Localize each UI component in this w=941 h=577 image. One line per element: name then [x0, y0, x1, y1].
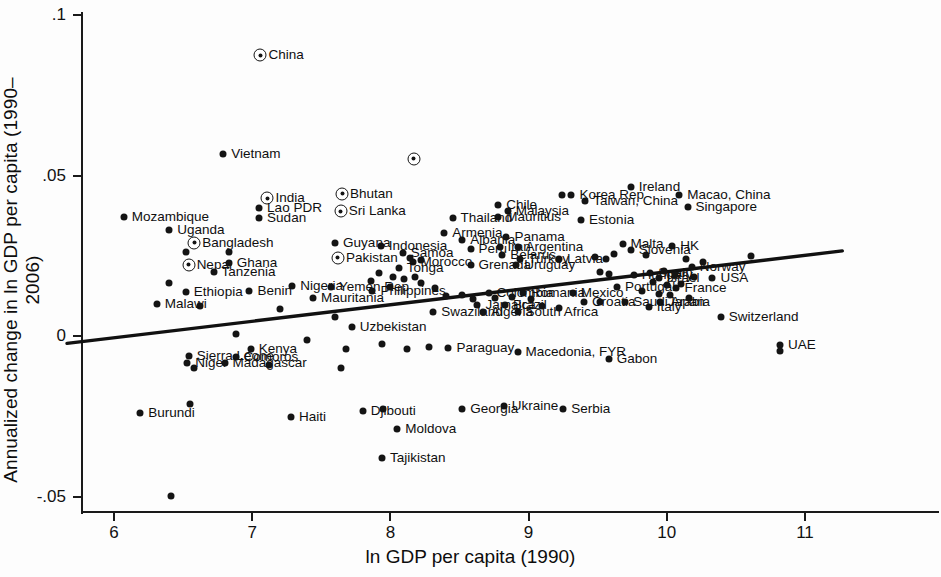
data-point[interactable] — [677, 280, 684, 287]
data-point[interactable] — [166, 279, 173, 286]
data-point[interactable] — [683, 256, 690, 263]
data-point-georgia[interactable] — [459, 405, 466, 412]
data-point-malawi[interactable] — [153, 300, 160, 307]
data-point-burundi[interactable] — [137, 409, 144, 416]
data-point-armenia[interactable] — [441, 229, 448, 236]
data-point[interactable] — [332, 314, 339, 321]
data-point[interactable] — [597, 269, 604, 276]
data-point[interactable] — [602, 255, 609, 262]
data-point-china[interactable] — [254, 49, 267, 62]
data-point[interactable] — [343, 345, 350, 352]
data-point-djibouti[interactable] — [359, 407, 366, 414]
data-point[interactable] — [492, 295, 499, 302]
data-point[interactable] — [442, 292, 449, 299]
data-point-sri-lanka[interactable] — [334, 205, 347, 218]
data-point[interactable] — [459, 291, 466, 298]
data-point[interactable] — [672, 272, 679, 279]
data-point[interactable] — [655, 290, 662, 297]
data-point[interactable] — [597, 298, 604, 305]
data-point[interactable] — [691, 273, 698, 280]
data-point[interactable] — [380, 405, 387, 412]
data-point[interactable] — [509, 294, 516, 301]
data-point[interactable] — [417, 279, 424, 286]
data-point-peru[interactable] — [467, 245, 474, 252]
data-point[interactable] — [167, 493, 174, 500]
data-point-gabon[interactable] — [605, 355, 612, 362]
data-point[interactable] — [232, 330, 239, 337]
data-point[interactable] — [777, 348, 784, 355]
data-point-samoa[interactable] — [399, 249, 406, 256]
data-point[interactable] — [225, 248, 232, 255]
data-point-chile[interactable] — [495, 202, 502, 209]
data-point-sudan[interactable] — [256, 215, 263, 222]
data-point-madagascar[interactable] — [221, 359, 228, 366]
data-point-uzbekistan[interactable] — [348, 324, 355, 331]
data-point[interactable] — [390, 273, 397, 280]
data-point-italy[interactable] — [645, 304, 652, 311]
data-point-vietnam[interactable] — [220, 151, 227, 158]
data-point-malta[interactable] — [619, 240, 626, 247]
data-point[interactable] — [528, 296, 535, 303]
data-point-haiti[interactable] — [287, 414, 294, 421]
data-point-algeria[interactable] — [479, 308, 486, 315]
data-point[interactable] — [265, 362, 272, 369]
data-point[interactable] — [191, 364, 198, 371]
data-point[interactable] — [304, 337, 311, 344]
data-point-albania[interactable] — [459, 236, 466, 243]
data-point[interactable] — [426, 344, 433, 351]
data-point-pakistan[interactable] — [331, 251, 344, 264]
data-point[interactable] — [558, 191, 565, 198]
data-point-saudi-arabia[interactable] — [622, 299, 629, 306]
data-point-indonesia[interactable] — [377, 242, 384, 249]
data-point-paraguay[interactable] — [445, 344, 452, 351]
data-point-mauritania[interactable] — [310, 295, 317, 302]
data-point[interactable] — [539, 303, 546, 310]
data-point[interactable] — [649, 279, 656, 286]
data-point[interactable] — [685, 295, 692, 302]
data-point-ethiopia[interactable] — [182, 288, 189, 295]
data-point-tanzenia[interactable] — [210, 269, 217, 276]
data-point-colombia[interactable] — [485, 289, 492, 296]
data-point[interactable] — [337, 365, 344, 372]
data-point[interactable] — [403, 346, 410, 353]
data-point-south-africa[interactable] — [514, 308, 521, 315]
data-point[interactable] — [431, 285, 438, 292]
data-point-taiwan-china[interactable] — [582, 197, 589, 204]
data-point[interactable] — [407, 152, 420, 165]
data-point-tonga[interactable] — [395, 265, 402, 272]
data-point[interactable] — [276, 306, 283, 313]
data-point-serbia[interactable] — [560, 405, 567, 412]
data-point-hungary[interactable] — [630, 272, 637, 279]
data-point-slovenia[interactable] — [627, 247, 634, 254]
data-point-guyana[interactable] — [332, 239, 339, 246]
data-point[interactable] — [748, 253, 755, 260]
data-point[interactable] — [187, 401, 194, 408]
data-point-swaziland[interactable] — [430, 308, 437, 315]
data-point[interactable] — [643, 252, 650, 259]
data-point[interactable] — [605, 270, 612, 277]
data-point[interactable] — [591, 253, 598, 260]
data-point-iran[interactable] — [496, 244, 503, 251]
data-point[interactable] — [387, 284, 394, 291]
data-point-niger[interactable] — [184, 359, 191, 366]
data-point-portugal[interactable] — [614, 284, 621, 291]
data-point-mozambique[interactable] — [120, 214, 127, 221]
data-point[interactable] — [611, 251, 618, 258]
data-point[interactable] — [638, 288, 645, 295]
data-point-ukraine[interactable] — [500, 402, 507, 409]
data-point-mexico[interactable] — [569, 289, 576, 296]
data-point[interactable] — [182, 249, 189, 256]
data-point-lao-pdr[interactable] — [256, 204, 263, 211]
data-point-bhutan[interactable] — [336, 187, 349, 200]
data-point[interactable] — [666, 292, 673, 299]
data-point-switzerland[interactable] — [717, 314, 724, 321]
data-point[interactable] — [376, 270, 383, 277]
data-point-bangladesh[interactable] — [188, 236, 201, 249]
data-point[interactable] — [556, 305, 563, 312]
data-point[interactable] — [661, 267, 668, 274]
data-point-benin[interactable] — [246, 288, 253, 295]
data-point[interactable] — [406, 254, 413, 261]
data-point-estonia[interactable] — [578, 217, 585, 224]
data-point-macedonia-fyr[interactable] — [514, 349, 521, 356]
data-point-moldova[interactable] — [394, 425, 401, 432]
